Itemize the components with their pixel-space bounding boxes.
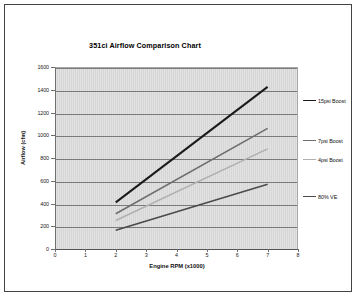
y-tick-mark (51, 158, 55, 159)
x-tick-mark (268, 249, 269, 252)
y-tick-label: 1400 (23, 87, 49, 93)
x-tick-mark (237, 249, 238, 252)
y-tick-mark (51, 113, 55, 114)
legend-label: 7psi Boost (318, 138, 343, 144)
x-tick-label: 5 (198, 252, 216, 258)
x-axis-title: Engine RPM (x1000) (55, 263, 299, 269)
y-tick-label: 1200 (23, 110, 49, 116)
x-tick-mark (146, 249, 147, 252)
x-tick-mark (177, 249, 178, 252)
y-tick-mark (51, 67, 55, 68)
chart-title: 351ci Airflow Comparison Chart (5, 41, 285, 50)
legend-label: 15psi Boost (318, 98, 346, 104)
x-tick-label: 4 (168, 252, 186, 258)
x-tick-mark (85, 249, 86, 252)
y-tick-mark (51, 135, 55, 136)
legend-label: 4psi Boost (318, 157, 343, 163)
x-tick-label: 1 (76, 252, 94, 258)
x-tick-mark (207, 249, 208, 252)
y-axis-title: Airflow (cfm) (20, 108, 26, 188)
y-tick-label: 400 (23, 201, 49, 207)
x-tick-label: 2 (107, 252, 125, 258)
legend-label: 80% VE (318, 194, 337, 200)
legend-item-0[interactable]: 15psi Boost (303, 91, 346, 99)
legend-swatch-icon (303, 159, 316, 160)
y-tick-mark (51, 204, 55, 205)
x-tick-label: 0 (46, 252, 64, 258)
x-tick-label: 3 (137, 252, 155, 258)
y-tick-label: 1000 (23, 132, 49, 138)
x-tick-mark (116, 249, 117, 252)
x-tick-mark (55, 249, 56, 252)
y-tick-label: 800 (23, 155, 49, 161)
y-tick-label: 1600 (23, 64, 49, 70)
chart-frame: 351ci Airflow Comparison Chart 020040060… (4, 4, 352, 292)
x-tick-label: 8 (289, 252, 307, 258)
legend-swatch-icon (303, 140, 316, 141)
series-lines (55, 67, 298, 249)
y-tick-mark (51, 181, 55, 182)
series-line-1 (116, 128, 268, 213)
y-tick-label: 600 (23, 178, 49, 184)
legend-swatch-icon (303, 100, 316, 101)
legend-item-3[interactable]: 80% VE (303, 187, 337, 195)
legend-item-1[interactable]: 7psi Boost (303, 131, 343, 139)
y-tick-mark (51, 90, 55, 91)
y-tick-label: 200 (23, 223, 49, 229)
legend-item-2[interactable]: 4psi Boost (303, 150, 343, 158)
y-tick-mark (51, 226, 55, 227)
series-line-3 (116, 184, 268, 230)
x-tick-mark (298, 249, 299, 252)
x-tick-label: 6 (228, 252, 246, 258)
legend-swatch-icon (303, 196, 316, 197)
x-tick-label: 7 (259, 252, 277, 258)
